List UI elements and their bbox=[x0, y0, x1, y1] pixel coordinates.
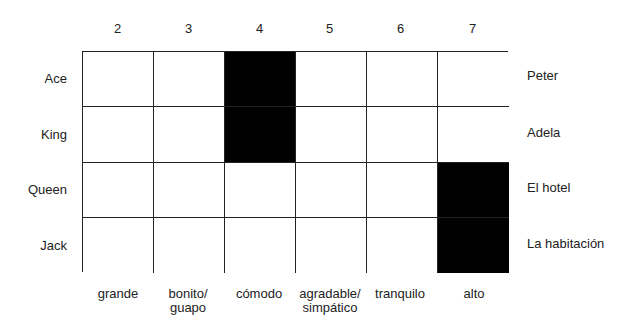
column-number: 4 bbox=[224, 21, 295, 36]
grid-cell bbox=[438, 52, 509, 107]
grid-cell bbox=[83, 107, 154, 162]
row-label: Jack bbox=[0, 238, 67, 253]
grid-cell bbox=[367, 52, 438, 107]
grid-cell bbox=[438, 107, 509, 162]
grid-cell-filled bbox=[225, 107, 296, 162]
grid-cell bbox=[225, 163, 296, 218]
grid-cell bbox=[83, 218, 154, 273]
column-label: bonito/ guapo bbox=[148, 287, 228, 315]
battleship-grid bbox=[82, 51, 508, 272]
grid-cell bbox=[83, 52, 154, 107]
row-label: Queen bbox=[0, 182, 67, 197]
column-label: grande bbox=[78, 287, 158, 301]
column-number: 2 bbox=[82, 21, 153, 36]
grid-cell-filled bbox=[225, 52, 296, 107]
column-label: alto bbox=[434, 287, 514, 301]
grid-cell bbox=[154, 163, 225, 218]
row-label: Ace bbox=[0, 71, 67, 86]
grid-cell bbox=[83, 163, 154, 218]
column-number: 5 bbox=[294, 21, 365, 36]
grid-cell bbox=[154, 52, 225, 107]
grid-cell-filled bbox=[438, 218, 509, 273]
column-number: 7 bbox=[437, 21, 508, 36]
row-label: Adela bbox=[527, 125, 560, 140]
grid-cell bbox=[367, 218, 438, 273]
column-number: 3 bbox=[153, 21, 224, 36]
row-label: Peter bbox=[527, 68, 558, 83]
column-label: agradable/ simpático bbox=[290, 287, 370, 315]
grid-cell bbox=[367, 107, 438, 162]
grid-cell bbox=[154, 107, 225, 162]
grid-cell bbox=[154, 218, 225, 273]
row-label: La habitación bbox=[527, 236, 604, 251]
grid-cell bbox=[296, 52, 367, 107]
grid-cell bbox=[296, 107, 367, 162]
grid-cell-filled bbox=[438, 163, 509, 218]
column-label: cómodo bbox=[219, 287, 299, 301]
column-label: tranquilo bbox=[360, 287, 440, 301]
row-label: El hotel bbox=[527, 180, 570, 195]
grid-cell bbox=[296, 218, 367, 273]
column-number: 6 bbox=[365, 21, 436, 36]
row-label: King bbox=[0, 127, 67, 142]
grid-cell bbox=[296, 163, 367, 218]
grid-cell bbox=[367, 163, 438, 218]
grid-cell bbox=[225, 218, 296, 273]
